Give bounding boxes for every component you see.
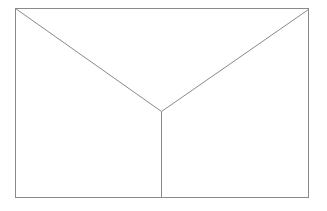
right-diagonal-line: [162, 10, 309, 112]
left-diagonal-line: [16, 9, 162, 112]
lines-group: [16, 9, 309, 198]
diagram-svg: [0, 0, 327, 211]
envelope-diagram: [0, 0, 327, 211]
